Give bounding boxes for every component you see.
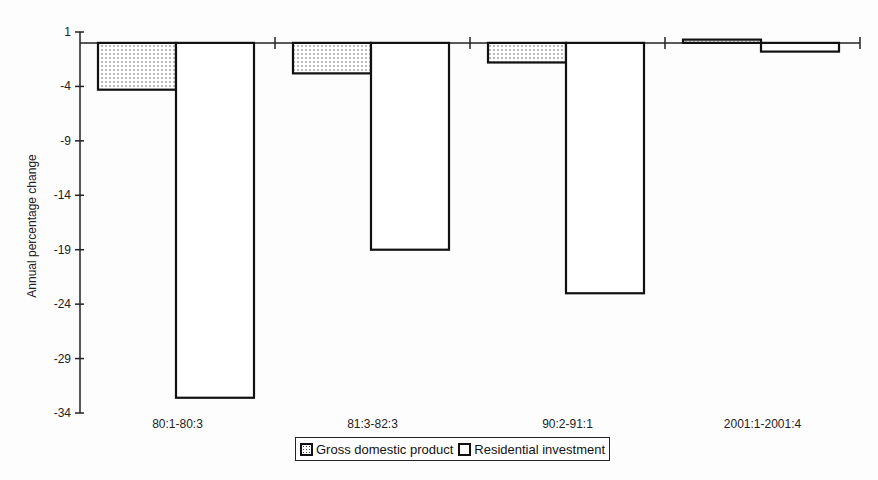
bar-residential [371,43,449,250]
legend-swatch-white-icon [458,443,471,456]
y-tick-label: -9 [60,134,71,148]
bar-gdp [98,43,176,90]
y-tick-label: -19 [54,243,72,257]
bar-residential [761,43,839,52]
x-category-label: 2001:1-2001:4 [724,417,802,431]
legend-item-residential: Residential investment [458,442,605,457]
x-category-label: 81:3-82:3 [347,417,398,431]
y-tick-label: -24 [54,297,72,311]
bar-residential [566,43,644,293]
bar-gdp [293,43,371,73]
y-tick-label: -14 [54,188,72,202]
legend: Gross domestic product Residential inves… [295,437,610,461]
legend-item-gdp: Gross domestic product [300,442,453,457]
legend-swatch-dotted-icon [300,443,313,456]
bars [98,40,839,398]
legend-label: Residential investment [474,442,605,457]
x-category-label: 90:2-91:1 [542,417,593,431]
y-axis-title: Annual percentage change [25,154,39,298]
y-tick-label: -4 [60,79,71,93]
y-tick-label: -29 [54,352,72,366]
bar-chart: 1-4-9-14-19-24-29-34 80:1-80:381:3-82:39… [0,0,878,480]
x-category-label: 80:1-80:3 [152,417,203,431]
bar-residential [176,43,254,398]
bar-gdp [683,40,761,43]
y-tick-label: -34 [54,406,72,420]
bar-gdp [488,43,566,63]
y-tick-label: 1 [64,25,71,39]
legend-label: Gross domestic product [316,442,453,457]
y-axis: 1-4-9-14-19-24-29-34 [54,25,84,420]
